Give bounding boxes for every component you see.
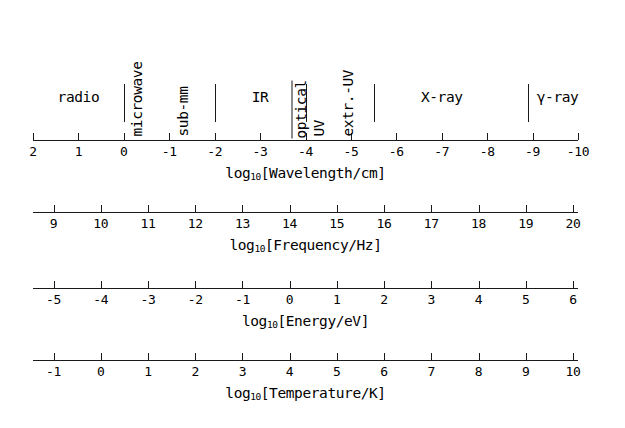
axis-tick-label: 5 [522,293,530,306]
axis-tick [573,353,574,360]
axis-tick [195,281,196,288]
axis-caption-subscript: 10 [254,243,264,254]
band-divider [124,84,125,122]
axis-tick-label: 10 [565,365,580,378]
axis-tick-label: 2 [191,365,199,378]
axis-tick-label: -9 [525,145,540,158]
axis-tick-label: -8 [480,145,495,158]
axis-caption-rest: [Energy/eV] [277,313,369,329]
axis-tick [337,205,338,212]
axis-caption-rest: [Temperature/K] [261,385,386,401]
axis-tick [573,205,574,212]
axis-tick-label: -6 [389,145,404,158]
axis-tick [526,353,527,360]
axis-caption-log: log [225,385,250,401]
axis-tick-label: -5 [46,293,61,306]
axis-tick-label: 4 [286,365,294,378]
axis-caption-frequency: log10[Frequency/Hz] [229,238,381,253]
band-label-UV: UV [311,120,326,137]
axis-tick [242,205,243,212]
axis-tick-label: 14 [282,217,297,230]
axis-tick-label: -2 [207,145,222,158]
axis-tick [337,353,338,360]
axis-tick-label: 0 [286,293,294,306]
axis-tick-label: 12 [188,217,203,230]
axis-tick-label: 5 [333,365,341,378]
axis-tick [242,353,243,360]
axis-tick [578,133,579,140]
band-divider [528,84,529,122]
axis-tick-label: -3 [140,293,155,306]
axis-tick-label: 9 [50,217,58,230]
axis-tick [533,133,534,140]
axis-tick-label: 0 [120,145,128,158]
axis-tick [54,205,55,212]
axis-line-temperature [33,360,578,361]
band-divider [374,84,375,122]
axis-tick [195,205,196,212]
axis-tick [479,353,480,360]
axis-tick-label: 8 [475,365,483,378]
axis-caption-log: log [242,313,267,329]
axis-tick [101,353,102,360]
axis-tick [431,353,432,360]
axis-caption-temperature: log10[Temperature/K] [225,386,385,401]
axis-tick [431,205,432,212]
band-label-microwave: microwave [130,62,145,137]
axis-tick [431,281,432,288]
axis-tick [242,281,243,288]
axis-tick-label: 2 [29,145,37,158]
axis-tick-label: 3 [428,293,436,306]
band-label-gamma-ray: γ-ray [537,90,579,105]
axis-tick [78,133,79,140]
axis-tick-label: 18 [471,217,486,230]
axis-tick-label: 9 [522,365,530,378]
axis-line-frequency [33,212,578,213]
band-label-extreme-UV: extr.-UV [341,70,356,137]
axis-tick [290,205,291,212]
axis-tick-label: 1 [144,365,152,378]
axis-tick-label: 0 [97,365,105,378]
band-divider [215,84,216,122]
axis-tick-label: -4 [93,293,108,306]
axis-tick [290,353,291,360]
axis-tick-label: 10 [93,217,108,230]
axis-tick-label: 3 [239,365,247,378]
axis-tick-label: -5 [343,145,358,158]
axis-tick [124,133,125,140]
axis-tick-label: -1 [235,293,250,306]
axis-tick-label: 20 [565,217,580,230]
axis-caption-subscript: 10 [250,391,260,402]
axis-tick [195,353,196,360]
axis-tick-label: -3 [253,145,268,158]
axis-tick-label: 6 [569,293,577,306]
axis-tick-label: -7 [434,145,449,158]
axis-tick-label: 15 [329,217,344,230]
axis-tick-label: 17 [424,217,439,230]
band-label-radio: radio [58,90,100,105]
axis-tick [290,281,291,288]
axis-tick [215,133,216,140]
axis-line-energy [33,288,578,289]
axis-tick-label: 7 [428,365,436,378]
axis-tick-label: -10 [567,145,590,158]
axis-tick [479,281,480,288]
band-label-optical: optical [291,80,308,138]
axis-tick [384,205,385,212]
axis-tick-label: 16 [377,217,392,230]
axis-caption-wavelength: log10[Wavelength/cm] [225,166,385,181]
electromagnetic-spectrum-figure: 210-1-2-3-4-5-6-7-8-9-10log10[Wavelength… [0,0,625,428]
axis-tick [442,133,443,140]
axis-tick [479,205,480,212]
axis-caption-rest: [Frequency/Hz] [265,237,382,253]
axis-tick-label: 1 [75,145,83,158]
axis-caption-subscript: 10 [267,319,277,330]
axis-tick-label: 1 [333,293,341,306]
axis-tick-label: 19 [518,217,533,230]
axis-tick-label: -1 [162,145,177,158]
axis-caption-energy: log10[Energy/eV] [242,314,369,329]
axis-tick [396,133,397,140]
axis-tick-label: -4 [298,145,313,158]
axis-tick [54,353,55,360]
axis-tick [148,281,149,288]
